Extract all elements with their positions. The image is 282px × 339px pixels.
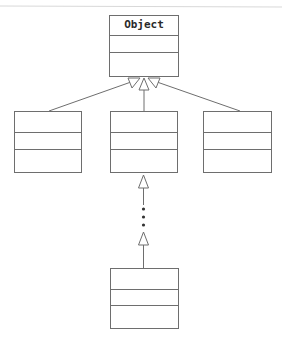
ellipsis-dot — [142, 223, 145, 226]
generalization-chain — [139, 175, 149, 268]
generalization-left — [49, 78, 140, 111]
hollow-triangle-arrow-icon — [139, 78, 149, 90]
class-name-object: Object — [110, 18, 178, 31]
operations-compartment — [15, 149, 81, 172]
class-child-middle — [110, 111, 178, 173]
operations-compartment — [111, 149, 177, 172]
name-compartment — [15, 112, 81, 132]
hollow-triangle-arrow-icon — [139, 175, 149, 188]
operations-compartment — [204, 149, 271, 172]
name-compartment — [111, 112, 177, 132]
ellipsis-dot — [142, 215, 145, 218]
attributes-compartment — [204, 132, 271, 149]
scan-artifact-line — [0, 6, 282, 7]
uml-diagram-canvas: Object — [0, 0, 282, 339]
hollow-triangle-arrow-icon — [148, 78, 160, 88]
operations-compartment — [111, 305, 178, 328]
attributes-compartment — [111, 132, 177, 149]
attributes-compartment — [15, 132, 81, 149]
ellipsis-dot — [142, 207, 145, 210]
name-compartment — [204, 112, 271, 132]
attributes-compartment — [111, 289, 178, 305]
hollow-triangle-arrow-icon — [128, 78, 140, 88]
class-child-right — [203, 111, 272, 173]
class-object: Object — [109, 15, 179, 77]
operations-compartment — [110, 52, 178, 76]
name-compartment — [111, 269, 178, 289]
class-child-left — [14, 111, 82, 173]
attributes-compartment — [110, 35, 178, 52]
class-descendant-bottom — [110, 268, 179, 329]
generalization-middle — [139, 78, 149, 111]
generalization-right — [148, 78, 240, 111]
hollow-triangle-arrow-icon — [139, 232, 149, 245]
